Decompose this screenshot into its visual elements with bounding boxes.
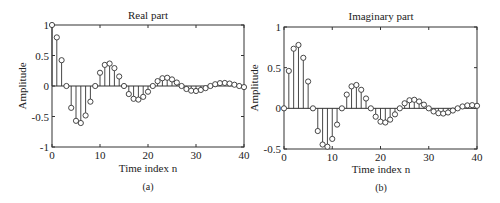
x-tick-label: 10 (327, 151, 339, 163)
stem-marker (213, 82, 218, 87)
stem-marker (141, 94, 146, 99)
stem-marker (301, 55, 306, 60)
y-tick-label: 0 (44, 80, 50, 92)
x-axis-label: Time index n (119, 162, 178, 174)
panel-caption: (a) (142, 181, 153, 193)
plot-frame (284, 27, 477, 149)
stem-marker (402, 101, 407, 106)
stem-marker (145, 89, 150, 94)
x-tick-label: 40 (472, 151, 484, 163)
stem-marker (344, 92, 349, 97)
y-tick-label: 0.5 (35, 50, 49, 62)
stem-marker (368, 106, 373, 111)
stem-marker (474, 103, 479, 108)
chart-imaginary-part: Imaginary part Amplitude Time index n (b… (250, 0, 500, 203)
stem-marker (88, 99, 93, 104)
stem-marker (93, 83, 98, 88)
stem-marker (83, 113, 88, 118)
axes: 010203040-1-0.500.51 (32, 19, 250, 161)
stem-marker (421, 102, 426, 107)
stem-marker (179, 83, 184, 88)
stem-marker (426, 106, 431, 111)
chart-title: Real part (128, 9, 168, 21)
x-tick-label: 30 (191, 149, 203, 161)
stem-marker (237, 83, 242, 88)
chart-title: Imaginary part (348, 10, 413, 22)
stem-marker (64, 83, 69, 88)
y-axis-label: Amplitude (16, 62, 28, 109)
stem-marker (227, 81, 232, 86)
stem-marker (174, 80, 179, 85)
stem-marker (78, 120, 83, 125)
stem-marker (121, 83, 126, 88)
y-tick-label: 1 (276, 21, 282, 33)
stem-marker (334, 122, 339, 127)
stem-marker (131, 96, 136, 101)
stem-marker (383, 120, 388, 125)
y-tick-label: -0.5 (264, 143, 282, 155)
x-tick-label: 10 (95, 149, 107, 161)
stem-marker (441, 111, 446, 116)
stem-marker (470, 103, 475, 108)
stem-marker (59, 58, 64, 63)
stem-marker (306, 79, 311, 84)
stem-marker (150, 83, 155, 88)
stem-marker (69, 105, 74, 110)
stem-marker (392, 112, 397, 117)
stem-marker (136, 97, 141, 102)
stem-marker (97, 70, 102, 75)
stem-marker (193, 88, 198, 93)
stem-marker (117, 74, 122, 79)
y-tick-label: 0.5 (267, 62, 281, 74)
chart-real-part: Real part Amplitude Time index n (a) 010… (0, 0, 250, 203)
stem-marker (397, 106, 402, 111)
stem-marker (107, 61, 112, 66)
axes: 010203040-0.500.51 (264, 21, 483, 163)
stem-marker (286, 68, 291, 73)
stem-plot-imaginary: Imaginary part Amplitude Time index n (b… (250, 0, 500, 203)
stem-marker (310, 106, 315, 111)
x-axis-label: Time index n (352, 163, 411, 175)
panel-caption: (b) (375, 182, 387, 194)
stem-marker (378, 119, 383, 124)
y-tick-label: -1 (40, 141, 49, 153)
stems (281, 42, 479, 149)
stem-marker (49, 22, 54, 27)
stems (49, 22, 246, 125)
stem-marker (241, 84, 246, 89)
x-tick-label: 30 (423, 151, 435, 163)
stem-marker (354, 82, 359, 87)
stem-marker (169, 77, 174, 82)
x-tick-label: 40 (239, 149, 251, 161)
stem-marker (363, 96, 368, 101)
stem-marker (373, 114, 378, 119)
stem-marker (281, 106, 286, 111)
stem-marker (330, 136, 335, 141)
stem-marker (417, 99, 422, 104)
stem-plot-real: Real part Amplitude Time index n (a) 010… (0, 0, 250, 203)
stem-marker (325, 144, 330, 149)
stem-marker (54, 35, 59, 40)
x-tick-label: 20 (143, 149, 155, 161)
y-tick-label: 0 (276, 102, 282, 114)
x-tick-label: 0 (49, 149, 55, 161)
stem-marker (296, 42, 301, 47)
y-axis-label: Amplitude (250, 64, 260, 111)
y-tick-label: 1 (44, 19, 50, 31)
stem-marker (460, 104, 465, 109)
stem-marker (112, 66, 117, 71)
stem-marker (155, 79, 160, 84)
stem-marker (388, 117, 393, 122)
stem-marker (126, 91, 131, 96)
x-tick-label: 0 (281, 151, 287, 163)
x-tick-label: 20 (375, 151, 387, 163)
stem-marker (315, 128, 320, 133)
stem-marker (339, 106, 344, 111)
y-tick-label: -0.5 (32, 111, 50, 123)
stem-marker (359, 87, 364, 92)
stem-marker (291, 46, 296, 51)
